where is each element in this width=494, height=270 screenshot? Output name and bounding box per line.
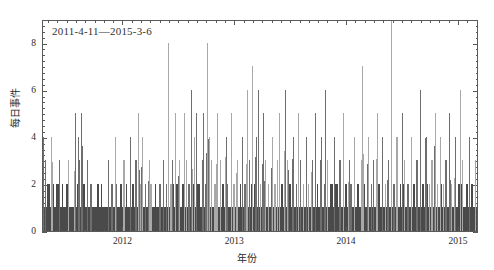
x-tick-minor-top: [150, 20, 151, 23]
y-tick-minor-right: [476, 79, 479, 80]
x-tick-minor-top: [95, 20, 96, 23]
y-tick-minor: [42, 120, 45, 121]
y-tick-minor-right: [476, 49, 479, 50]
bar-spike: [252, 66, 253, 231]
bar-spike: [440, 137, 441, 231]
bar-spike: [194, 137, 195, 231]
y-tick-minor: [42, 126, 45, 127]
bar-spike: [272, 137, 273, 231]
bar-segment-mid: [451, 184, 452, 231]
x-tick-minor-top: [113, 20, 114, 23]
bar-spike: [455, 137, 456, 231]
bar-segment-mid: [59, 160, 60, 231]
bar-spike: [168, 43, 169, 231]
bar-series: [43, 21, 477, 231]
bar-spike: [293, 137, 294, 231]
x-tick-minor-top: [253, 20, 254, 23]
x-tick-minor: [337, 230, 338, 233]
x-tick-minor-top: [439, 20, 440, 23]
x-tick-minor-top: [309, 20, 310, 23]
bar-spike: [285, 90, 286, 231]
y-tick-minor: [42, 97, 45, 98]
y-tick-minor-right: [476, 120, 479, 121]
bar-segment-mid: [79, 160, 80, 231]
y-tick-minor-right: [476, 155, 479, 156]
bar-spike: [327, 160, 328, 231]
x-tick-minor-top: [197, 20, 198, 23]
bar-segment-mid: [268, 184, 270, 231]
bar-spike: [388, 160, 389, 231]
y-tick-minor-right: [476, 150, 479, 151]
y-tick-minor-right: [476, 67, 479, 68]
y-tick-minor-right: [476, 85, 479, 86]
y-tick-minor: [42, 38, 45, 39]
y-tick-minor-right: [476, 55, 479, 56]
bar-segment-mid: [462, 160, 463, 231]
y-tick-minor: [42, 132, 45, 133]
bar-spike: [142, 137, 143, 231]
x-tick-minor-top: [122, 20, 123, 23]
bar-segment-mid: [371, 184, 372, 231]
x-tick-minor-top: [393, 20, 394, 23]
bar-segment-mid: [145, 184, 147, 231]
bar-spike: [207, 43, 208, 231]
y-tick-minor-right: [476, 114, 479, 115]
x-tick-minor: [132, 230, 133, 233]
bar-spike: [209, 137, 210, 231]
bar-spike: [138, 113, 139, 231]
bar-spike: [334, 137, 335, 231]
y-tick-minor-right: [476, 173, 479, 174]
bar-segment-mid: [407, 184, 409, 231]
bar-spike: [349, 160, 350, 231]
y-tick-minor: [42, 108, 45, 109]
bar-segment-mid: [220, 160, 221, 231]
y-tick-minor-right: [476, 32, 479, 33]
bar-segment-mid: [87, 160, 88, 231]
x-tick-minor-top: [467, 20, 468, 23]
x-tick-minor: [48, 230, 49, 233]
x-tick-minor-top: [141, 20, 142, 23]
bar-spike: [51, 137, 52, 231]
y-tick-major-right: [473, 232, 478, 233]
x-tick-label: 2015: [438, 236, 478, 246]
bar-segment-mid: [233, 184, 235, 231]
bar-spike: [449, 113, 450, 231]
y-tick-minor: [42, 102, 45, 103]
bar-segment-mid: [416, 160, 417, 231]
y-tick-minor: [42, 79, 45, 80]
x-tick-minor: [290, 230, 291, 233]
bar-segment-mid: [116, 184, 117, 231]
y-tick-minor-right: [476, 61, 479, 62]
bar-spike: [315, 113, 316, 231]
x-tick-minor: [458, 230, 459, 233]
bar-segment-mid: [111, 184, 113, 231]
x-tick-minor-top: [402, 20, 403, 23]
x-tick-minor-top: [169, 20, 170, 23]
bar-spike: [115, 137, 116, 231]
bar-spike: [354, 137, 355, 231]
bar-segment-mid: [123, 160, 124, 231]
x-tick-minor: [104, 230, 105, 233]
y-tick-minor: [42, 114, 45, 115]
bar-spike: [312, 160, 313, 231]
x-tick-minor-top: [355, 20, 356, 23]
x-tick-minor-top: [216, 20, 217, 23]
y-tick-label: 0: [18, 226, 36, 236]
bar-spike: [78, 137, 79, 231]
bar-spike: [391, 20, 392, 231]
bar-spike: [149, 160, 150, 231]
y-tick-minor-right: [476, 26, 479, 27]
x-tick-label: 2012: [102, 236, 142, 246]
bar-spike: [321, 137, 322, 231]
y-tick-minor-right: [476, 73, 479, 74]
bar-spike: [191, 90, 192, 231]
bar-segment-mid: [431, 160, 433, 231]
bar-segment-mid: [350, 184, 352, 231]
y-tick-minor-right: [476, 38, 479, 39]
y-tick-label: 8: [18, 38, 36, 48]
x-tick-minor-top: [132, 20, 133, 23]
y-tick-minor-right: [476, 132, 479, 133]
y-tick-minor-right: [476, 161, 479, 162]
y-tick-major: [42, 232, 47, 233]
y-tick-minor-right: [476, 108, 479, 109]
